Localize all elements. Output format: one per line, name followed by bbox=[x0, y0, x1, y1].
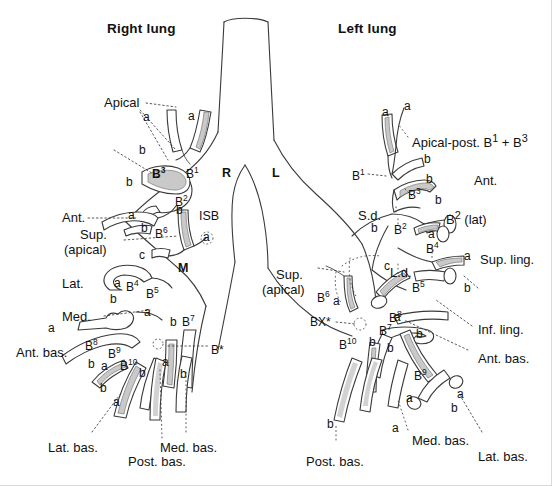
left-b4-label: B4 bbox=[426, 243, 439, 255]
left-bot-b-1: b bbox=[327, 418, 334, 430]
left-b6-superior-apical bbox=[326, 266, 366, 330]
right-a-3: a bbox=[128, 209, 135, 221]
left-superior-label: Sup. bbox=[276, 268, 303, 281]
right-b8-label: B8 bbox=[85, 340, 98, 352]
left-lateral-basal-label: Lat. bas. bbox=[478, 450, 528, 463]
left-superior-label-2: (apical) bbox=[262, 283, 305, 296]
right-medial-label: Med. bbox=[62, 310, 91, 323]
right-superior-label: Sup. bbox=[80, 228, 107, 241]
left-inferior-lingular-label: Inf. ling. bbox=[478, 323, 524, 336]
lingular-division-label: L.d. bbox=[390, 266, 412, 279]
middle-lobe-bronchus-label: M bbox=[178, 262, 188, 275]
right-b5-b: b bbox=[170, 316, 177, 328]
right-lung-title: Right lung bbox=[107, 22, 176, 36]
right-b8-a-out: a bbox=[48, 322, 55, 334]
left-superior-lingular-label: Sup. ling. bbox=[480, 253, 534, 266]
left-b2-lat-label: B2 (lat) bbox=[446, 210, 487, 226]
right-b9-a: a bbox=[101, 360, 108, 372]
left-b2-a: a bbox=[428, 228, 435, 240]
left-bot-a-1: a bbox=[392, 422, 399, 434]
right-b9-label: B9 bbox=[108, 348, 121, 360]
left-bot-a-3: a bbox=[457, 388, 464, 400]
right-b10-b: b bbox=[139, 367, 146, 379]
left-b7-label: B7 bbox=[379, 325, 392, 337]
right-b6-c: c bbox=[139, 249, 145, 261]
right-b5-a: a bbox=[144, 306, 151, 318]
left-b7-b: b bbox=[387, 342, 394, 354]
left-b10-label: B10 bbox=[339, 339, 356, 351]
right-b7-label: B7 bbox=[182, 316, 195, 328]
right-a-2: a bbox=[188, 110, 195, 122]
left-lung-title: Left lung bbox=[338, 22, 397, 36]
right-apical-label: Apical bbox=[104, 96, 139, 109]
right-bstar-label: B* bbox=[211, 344, 224, 356]
right-b9-b: b bbox=[100, 382, 107, 394]
left-b5-label: B5 bbox=[412, 282, 425, 294]
left-b8-b: b bbox=[369, 336, 376, 348]
right-main-bronchus-label: R bbox=[222, 167, 231, 180]
left-a-1: a bbox=[382, 106, 389, 118]
right-a-1: a bbox=[143, 111, 150, 123]
left-b-top-2: b bbox=[426, 173, 433, 185]
left-b4-a: a bbox=[464, 250, 471, 262]
right-b10-label: B10 bbox=[120, 360, 137, 372]
left-b2-b: b bbox=[435, 194, 442, 206]
left-b1-label: B1 bbox=[352, 170, 365, 182]
right-b-3: b bbox=[141, 222, 148, 234]
right-lateral-basal-label: Lat. bas. bbox=[48, 441, 98, 454]
left-b6-label: B6 bbox=[317, 292, 330, 304]
left-b6-a: a bbox=[333, 295, 340, 307]
right-b10-a: a bbox=[113, 396, 120, 408]
right-b4-label: B4 bbox=[126, 281, 139, 293]
left-anterior-basal-label: Ant. bas. bbox=[478, 352, 529, 365]
right-b-isb: b bbox=[176, 204, 183, 216]
right-medial-basal-label: Med. bas. bbox=[160, 441, 217, 454]
left-main-bronchus-label: L bbox=[272, 167, 280, 180]
left-b3-label: B3 bbox=[408, 189, 421, 201]
right-b-2: b bbox=[126, 176, 133, 188]
right-lateral-label: Lat. bbox=[62, 277, 84, 290]
right-anterior-basal-label: Ant. bas. bbox=[16, 346, 67, 359]
right-superior-label-2: (apical) bbox=[64, 243, 107, 256]
left-b2-up-label: B2 bbox=[394, 224, 407, 236]
left-apical-posterior-label: Apical-post. B1 + B3 bbox=[412, 133, 528, 149]
left-bot-b-2: b bbox=[451, 402, 458, 414]
right-b4-b: b bbox=[110, 293, 117, 305]
right-b3-label: B3B3 bbox=[152, 168, 165, 180]
left-medial-basal-label: Med. bas. bbox=[412, 434, 469, 447]
trachea bbox=[218, 18, 274, 140]
left-b-top-1: b bbox=[424, 153, 431, 165]
left-anterior-label: Ant. bbox=[474, 174, 497, 187]
isb-label: ISB bbox=[199, 210, 219, 223]
right-b7-b: b bbox=[180, 368, 187, 380]
left-b9-label: B9 bbox=[414, 370, 427, 382]
left-bxstar-label: BX* bbox=[310, 316, 331, 328]
right-isb-a: a bbox=[203, 231, 210, 243]
bronchial-tree-figure: .ln { fill:none; stroke:#3a3a3a; stroke-… bbox=[0, 0, 552, 486]
right-b5-label: B5 bbox=[146, 288, 159, 300]
left-b6-c: c bbox=[384, 260, 390, 272]
right-b6-label: B6 bbox=[155, 228, 168, 240]
right-posterior-basal-label: Post. bas. bbox=[128, 455, 186, 468]
left-b5-b: b bbox=[416, 328, 423, 340]
right-b4-a: a bbox=[114, 277, 121, 289]
right-b8-b: b bbox=[88, 358, 95, 370]
left-b10-posterior-basal bbox=[334, 358, 408, 422]
left-bot-a-2: a bbox=[406, 392, 413, 404]
left-b-sd: b bbox=[371, 222, 378, 234]
right-b1-label: B1 bbox=[186, 168, 199, 180]
right-b7-a: a bbox=[162, 356, 169, 368]
left-a-2: a bbox=[404, 100, 411, 112]
left-posterior-basal-label: Post. bas. bbox=[306, 455, 364, 468]
right-anterior-label: Ant. bbox=[62, 211, 85, 224]
left-b4-b: b bbox=[464, 282, 471, 294]
right-b-1: b bbox=[139, 144, 146, 156]
